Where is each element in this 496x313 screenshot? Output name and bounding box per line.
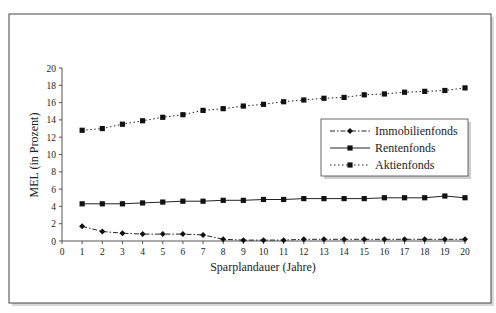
data-point-rentenfonds	[180, 199, 185, 204]
legend-label-rentenfonds: Rentenfonds	[375, 141, 436, 155]
x-tick-label: 10	[259, 247, 269, 257]
data-point-aktienfonds	[422, 89, 427, 94]
x-tick-label: 2	[100, 247, 105, 257]
x-tick-label: 5	[160, 247, 165, 257]
data-point-aktienfonds	[160, 115, 165, 120]
data-point-aktienfonds	[80, 128, 85, 133]
data-point-rentenfonds	[422, 195, 427, 200]
x-tick-label: 4	[140, 247, 145, 257]
data-point-aktienfonds	[402, 90, 407, 95]
x-tick-label: 6	[181, 247, 186, 257]
y-tick-label: 8	[51, 167, 56, 177]
x-axis-label: Sparplandauer (Jahre)	[210, 260, 316, 274]
data-point-rentenfonds	[140, 200, 145, 205]
x-tick-label: 19	[440, 247, 450, 257]
data-point-aktienfonds	[321, 96, 326, 101]
data-point-aktienfonds	[200, 108, 205, 113]
x-tick-label: 15	[360, 247, 370, 257]
data-point-aktienfonds	[462, 85, 467, 90]
data-point-rentenfonds	[462, 195, 467, 200]
data-point-rentenfonds	[261, 197, 266, 202]
x-tick-label: 17	[400, 247, 410, 257]
data-point-aktienfonds	[180, 112, 185, 117]
y-axis-label: MEL (in Prozent)	[27, 113, 41, 198]
y-tick-label: 16	[47, 98, 57, 108]
y-tick-label: 10	[47, 150, 57, 160]
y-tick-label: 6	[51, 185, 56, 195]
data-point-aktienfonds	[342, 95, 347, 100]
y-tick-label: 4	[51, 202, 56, 212]
x-tick-label: 8	[221, 247, 226, 257]
data-point-aktienfonds	[281, 99, 286, 104]
x-tick-label: 14	[339, 247, 349, 257]
x-tick-label: 20	[460, 247, 470, 257]
data-point-rentenfonds	[402, 195, 407, 200]
data-point-aktienfonds	[362, 92, 367, 97]
x-tick-label: 16	[380, 247, 390, 257]
x-tick-label: 18	[420, 247, 430, 257]
data-point-rentenfonds	[321, 196, 326, 201]
line-chart: 02468101214161820 0123456789101112131415…	[0, 0, 496, 313]
data-point-aktienfonds	[261, 102, 266, 107]
y-tick-label: 18	[47, 81, 57, 91]
data-point-aktienfonds	[301, 97, 306, 102]
data-point-rentenfonds	[160, 199, 165, 204]
x-tick-label: 3	[120, 247, 125, 257]
data-point-aktienfonds	[100, 126, 105, 131]
x-tick-label: 9	[241, 247, 246, 257]
data-point-rentenfonds	[442, 193, 447, 198]
data-point-rentenfonds	[200, 199, 205, 204]
data-point-aktienfonds	[221, 106, 226, 111]
data-point-aktienfonds	[382, 91, 387, 96]
data-point-rentenfonds	[241, 198, 246, 203]
data-point-rentenfonds	[382, 195, 387, 200]
data-point-rentenfonds	[342, 196, 347, 201]
data-point-rentenfonds	[362, 196, 367, 201]
data-point-aktienfonds	[140, 118, 145, 123]
data-point-aktienfonds	[120, 122, 125, 127]
legend-marker-rentenfonds	[347, 145, 352, 150]
data-point-aktienfonds	[442, 88, 447, 93]
data-point-rentenfonds	[120, 201, 125, 206]
x-tick-label: 13	[319, 247, 329, 257]
data-point-rentenfonds	[221, 198, 226, 203]
legend-label-immobilienfonds: Immobilienfonds	[375, 124, 458, 138]
y-tick-label: 2	[51, 219, 56, 229]
x-tick-label: 1	[80, 247, 85, 257]
data-point-aktienfonds	[241, 103, 246, 108]
data-point-rentenfonds	[281, 197, 286, 202]
data-point-rentenfonds	[100, 201, 105, 206]
legend: Immobilienfonds Rentenfonds Aktienfonds	[321, 119, 471, 179]
y-tick-label: 12	[47, 133, 57, 143]
y-tick-label: 0	[51, 237, 56, 247]
x-tick-label: 7	[201, 247, 206, 257]
y-tick-label: 14	[47, 115, 57, 125]
data-point-rentenfonds	[301, 196, 306, 201]
data-point-rentenfonds	[80, 201, 85, 206]
x-tick-label: 11	[279, 247, 288, 257]
x-tick-label: 0	[60, 247, 65, 257]
y-tick-label: 20	[47, 64, 57, 74]
legend-label-aktienfonds: Aktienfonds	[375, 158, 435, 172]
x-tick-label: 12	[299, 247, 309, 257]
legend-marker-aktienfonds	[347, 162, 352, 167]
